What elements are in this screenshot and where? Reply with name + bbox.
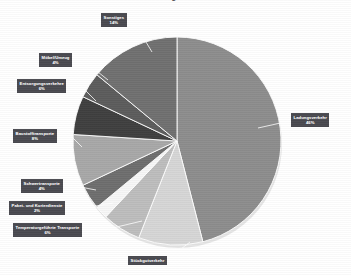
pie-data-label-percent: 2% <box>12 208 63 213</box>
pie-data-label: Möbel/Umzug4% <box>39 53 72 67</box>
pie-data-label-percent: 14% <box>104 20 124 25</box>
pie-data-label-percent: 6% <box>20 86 64 91</box>
pie-data-label-percent: 4% <box>24 186 60 191</box>
pie-data-label: Temperaturgeführte Transporte6% <box>13 223 82 237</box>
pie-data-label-name: Stückgutverkehr <box>131 258 165 263</box>
pie-data-label: Stückgutverkehr <box>128 256 167 265</box>
pie-data-label-percent: 6% <box>16 230 80 235</box>
pie-chart: Anteile der Verkehrssegmente am Güterver… <box>0 0 351 275</box>
pie-data-label-percent: 4% <box>42 60 70 65</box>
pie-data-label-percent: 46% <box>294 120 327 125</box>
pie-data-label: Entsorgungsverkehre6% <box>17 79 66 93</box>
pie-data-label: Sonstiges14% <box>101 13 127 27</box>
pie-data-label: Baustofftransporte8% <box>13 129 57 143</box>
pie-data-label: Schwertransporte4% <box>21 179 63 193</box>
pie-data-label: Paket- und Kurierdienste2% <box>9 201 65 215</box>
pie-data-label: Ladungsverkehr46% <box>291 113 329 127</box>
pie-data-label-percent: 8% <box>16 136 55 141</box>
